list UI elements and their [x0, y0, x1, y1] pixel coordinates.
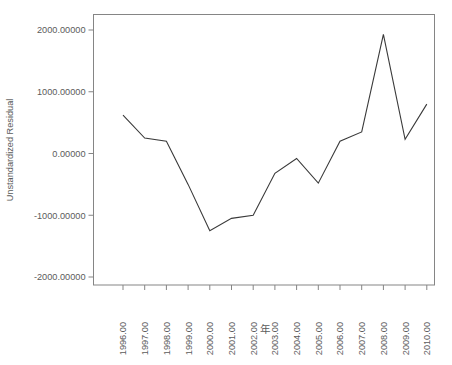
x-axis-tick-label: 1997.00 [140, 322, 150, 355]
x-axis-tick-label: 2003.00 [270, 322, 280, 355]
y-axis-tick-label: -1000.00000 [34, 211, 86, 221]
y-axis-tick-label: 1000.00000 [37, 87, 86, 97]
x-axis-tick-label: 2008.00 [379, 322, 389, 355]
chart-background [0, 0, 452, 365]
x-axis-tick-label: 2001.00 [227, 322, 237, 355]
chart-canvas: 2000.000001000.000000.00000-1000.00000-2… [0, 0, 452, 365]
y-axis-tick-label: -2000.00000 [34, 272, 86, 282]
y-axis-tick-label: 0.00000 [52, 149, 85, 159]
x-axis-tick-label: 2000.00 [205, 322, 215, 355]
x-axis-tick-label: 2002.00 [249, 322, 259, 355]
y-axis-title: Unstandardized Residual [5, 99, 15, 202]
x-axis-tick-label: 1996.00 [118, 322, 128, 355]
x-axis-tick-label: 2004.00 [292, 322, 302, 355]
x-axis-tick-label: 1998.00 [162, 322, 172, 355]
x-axis-tick-label: 2005.00 [314, 322, 324, 355]
x-axis-tick-label: 2009.00 [401, 322, 411, 355]
x-axis-tick-label: 2010.00 [422, 322, 432, 355]
y-axis-tick-label: 2000.00000 [37, 25, 86, 35]
residual-line-chart: 2000.000001000.000000.00000-1000.00000-2… [0, 0, 452, 365]
x-axis-tick-label: 2006.00 [335, 322, 345, 355]
x-axis-tick-label: 2007.00 [357, 322, 367, 355]
x-axis-title: 年 [260, 323, 270, 335]
x-axis-tick-label: 1999.00 [184, 322, 194, 355]
